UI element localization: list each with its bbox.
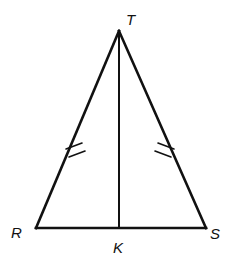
triangle-diagram-canvas: T R S K (0, 0, 240, 270)
vertex-label-k: K (113, 239, 124, 256)
vertex-label-s: S (210, 225, 220, 242)
geometry-figure: T R S K (0, 0, 240, 270)
vertex-label-r: R (11, 224, 22, 241)
